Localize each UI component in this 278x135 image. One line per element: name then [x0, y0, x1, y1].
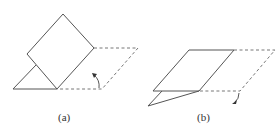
flat-parallelogram	[153, 50, 234, 91]
curved-arrow-up-icon	[92, 73, 99, 88]
panel-a-label: (a)	[58, 112, 70, 123]
lower-thin-flap	[148, 91, 199, 106]
panel-b-drawing	[148, 50, 275, 106]
folded-square	[27, 14, 94, 89]
lower-triangle	[13, 65, 57, 89]
dashed-original-outline	[199, 50, 275, 91]
curved-arrow-down-icon	[232, 93, 239, 104]
panel-b-label: (b)	[197, 112, 210, 123]
fold-diagram	[0, 0, 278, 135]
dashed-original-outline	[57, 48, 138, 89]
panel-a-drawing	[13, 14, 138, 89]
